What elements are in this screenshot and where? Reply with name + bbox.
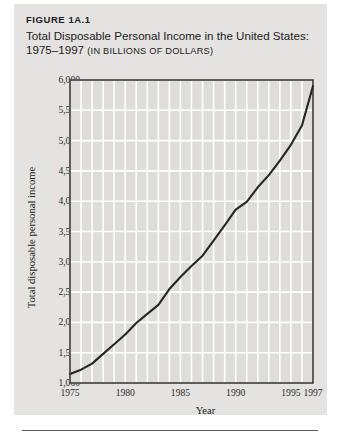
x-axis-tick-label: 1995 [281, 387, 300, 398]
x-axis-tick-label: 1997 [303, 387, 322, 398]
x-axis-tick-label: 1980 [116, 387, 135, 398]
figure-panel: FIGURE 1A.1 Total Disposable Personal In… [14, 4, 327, 415]
bottom-divider [22, 430, 318, 431]
x-axis-tick-labels: 197519801985199019951997 [14, 4, 341, 440]
x-axis-tick-label: 1985 [171, 387, 190, 398]
x-axis-tick-label: 1975 [60, 387, 79, 398]
x-axis-tick-label: 1990 [226, 387, 245, 398]
